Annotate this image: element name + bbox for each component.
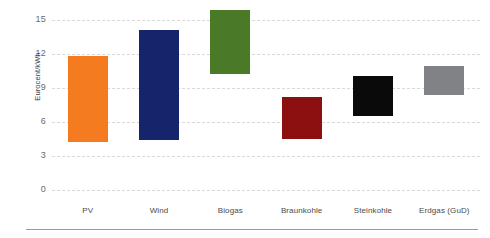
x-label-wind: Wind	[123, 206, 194, 215]
chart-container: 03691215 Eurocent/kWh PVWindBiogasBraunk…	[0, 0, 490, 238]
bar-steinkohle	[353, 76, 393, 117]
gridline-6	[52, 122, 480, 123]
bar-wind	[139, 30, 179, 140]
y-tick-label-0: 0	[24, 185, 46, 194]
y-tick-label-15: 15	[24, 15, 46, 24]
bottom-rule-divider	[26, 229, 478, 230]
y-tick-label-3: 3	[24, 151, 46, 160]
bar-pv	[68, 56, 108, 142]
bar-braunkohle	[282, 97, 322, 139]
gridline-15	[52, 20, 480, 21]
bar-erdgas-gud	[424, 66, 464, 94]
gridline-3	[52, 156, 480, 157]
x-label-braunkohle: Braunkohle	[266, 206, 337, 215]
y-axis-title: Eurocent/kWh	[33, 32, 42, 122]
x-label-erdgas-gud: Erdgas (GuD)	[409, 206, 480, 215]
gridline-9	[52, 88, 480, 89]
gridline-12	[52, 54, 480, 55]
bar-biogas	[210, 10, 250, 75]
gridline-0	[52, 190, 480, 191]
x-label-pv: PV	[52, 206, 123, 215]
x-label-biogas: Biogas	[195, 206, 266, 215]
x-label-steinkohle: Steinkohle	[337, 206, 408, 215]
plot-area	[52, 10, 480, 200]
